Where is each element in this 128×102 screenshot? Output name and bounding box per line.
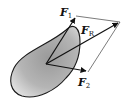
rigid-body-shape: [11, 26, 80, 96]
parallelogram-edge-top: [76, 16, 120, 22]
label-f1: F1: [59, 6, 72, 20]
label-f2: F2: [77, 76, 90, 90]
force-diagram: F1 FR F2: [0, 0, 128, 102]
label-fr: FR: [80, 24, 95, 38]
